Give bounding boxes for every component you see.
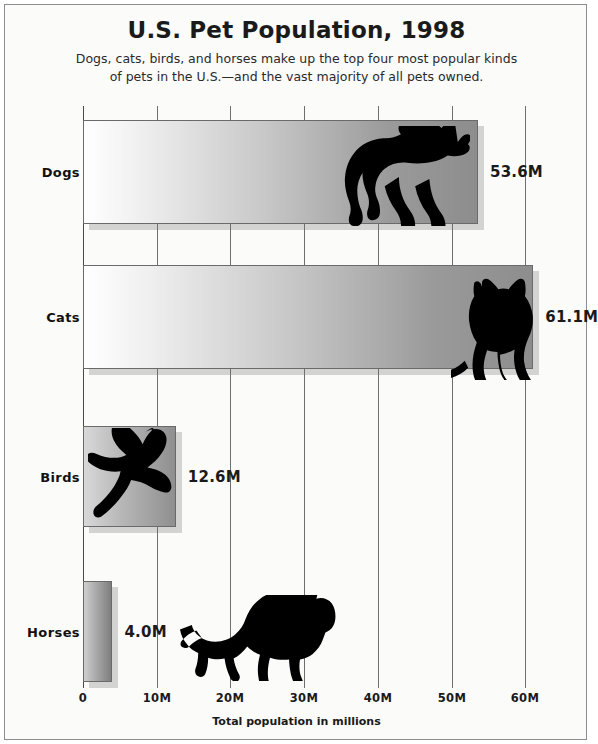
bar-horses[interactable] bbox=[83, 581, 112, 682]
x-tick-label-0: 0 bbox=[79, 691, 87, 705]
category-label-dogs: Dogs bbox=[0, 165, 80, 180]
bar-birds[interactable] bbox=[83, 426, 176, 527]
value-label-dogs: 53.6M bbox=[490, 163, 543, 181]
value-label-birds: 12.6M bbox=[188, 468, 241, 486]
bar-cats[interactable] bbox=[83, 265, 533, 369]
category-label-horses: Horses bbox=[0, 624, 80, 639]
x-tick-label-20M: 20M bbox=[216, 691, 244, 705]
x-axis-title: Total population in millions bbox=[5, 715, 588, 728]
value-label-horses: 4.0M bbox=[124, 623, 166, 641]
category-label-birds: Birds bbox=[0, 469, 80, 484]
x-tick-label-40M: 40M bbox=[364, 691, 392, 705]
category-label-cats: Cats bbox=[0, 310, 80, 325]
plot-area: Dogs53.6MCats61.1MBirds12.6MHorses4.0M 0… bbox=[5, 5, 588, 741]
x-tick-label-60M: 60M bbox=[511, 691, 539, 705]
x-tick-label-30M: 30M bbox=[290, 691, 318, 705]
x-tick-label-50M: 50M bbox=[438, 691, 466, 705]
chart-frame: U.S. Pet Population, 1998 Dogs, cats, bi… bbox=[4, 4, 587, 740]
horse-silhouette bbox=[180, 595, 340, 681]
x-tick-label-10M: 10M bbox=[143, 691, 171, 705]
gridline-60M bbox=[525, 106, 526, 688]
bar-dogs[interactable] bbox=[83, 120, 478, 224]
value-label-cats: 61.1M bbox=[545, 308, 598, 326]
